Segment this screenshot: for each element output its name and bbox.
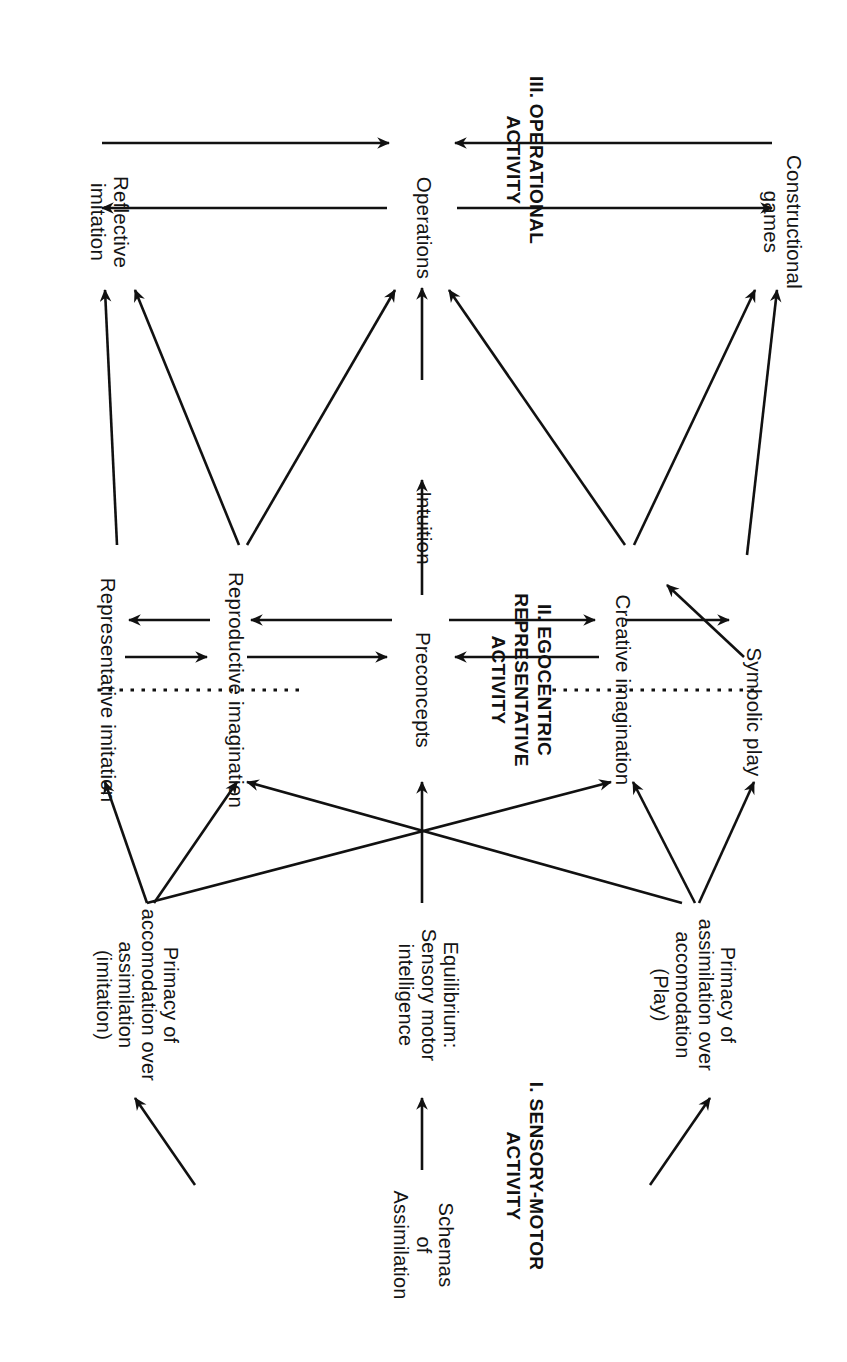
figure-canvas: I. SENSORY-MOTOR ACTIVITY II. EGOCENTRIC… bbox=[0, 0, 847, 1362]
node-operations: Operations bbox=[412, 118, 435, 338]
node-representative-imitation: Representative imitation bbox=[96, 525, 119, 855]
node-schemas-of-assimilation: Schemas of Assimilation bbox=[390, 1120, 457, 1362]
stage-heading-3: III. OPERATIONAL ACTIVITY bbox=[501, 10, 547, 310]
node-symbolic-play: Symbolic play bbox=[742, 617, 765, 807]
node-primacy-of-assimilation: Primacy of assimilation over accomodatio… bbox=[649, 845, 739, 1145]
edge-creative-imagination-to-operations bbox=[449, 290, 625, 545]
node-reflective-imitation: Reflective imitation bbox=[86, 97, 132, 347]
node-equilibrium-sensory-motor-intelligence: Equilibrium: Sensory motor intelligence bbox=[395, 845, 462, 1145]
edge-reproductive-imagination-to-operations bbox=[247, 290, 395, 545]
node-primacy-of-accomodation: Primacy of accomodation over assimilatio… bbox=[92, 845, 182, 1145]
diagram-stage: I. SENSORY-MOTOR ACTIVITY II. EGOCENTRIC… bbox=[0, 0, 847, 1362]
node-creative-imagination: Creative imagination bbox=[611, 540, 634, 840]
edge-reproductive-imagination-to-reflective-imitation bbox=[135, 290, 239, 545]
stage-heading-2: II. EGOCENTRIC REPRESENTATIVE ACTIVITY bbox=[487, 530, 555, 830]
stage-heading-1: I. SENSORY-MOTOR ACTIVITY bbox=[501, 1046, 547, 1306]
node-reproductive-imagination: Reproductive imagination bbox=[224, 525, 247, 855]
edge-creative-imagination-to-constructional-games bbox=[634, 290, 755, 545]
node-intuition: Intuition bbox=[412, 438, 435, 618]
node-constructional-games: Constructional games bbox=[759, 87, 805, 357]
